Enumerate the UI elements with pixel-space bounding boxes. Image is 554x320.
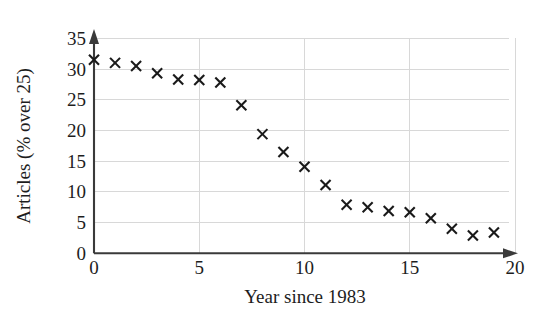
- data-points: [89, 55, 499, 241]
- data-point: [321, 180, 331, 190]
- x-tick-label: 10: [295, 257, 314, 278]
- data-point: [173, 74, 183, 84]
- data-point: [468, 230, 478, 240]
- x-tick-label: 0: [89, 257, 99, 278]
- y-tick-label: 30: [67, 59, 86, 80]
- data-point: [110, 58, 120, 68]
- x-tick-label: 15: [400, 257, 419, 278]
- y-tick-label: 20: [67, 120, 86, 141]
- x-tick-label: 5: [195, 257, 205, 278]
- data-point: [426, 213, 436, 223]
- data-point: [384, 206, 394, 216]
- y-axis-arrowhead: [89, 29, 99, 44]
- y-tick-label: 25: [67, 89, 86, 110]
- scatter-chart: 05101520 05101520253035 Year since 1983 …: [0, 0, 554, 320]
- data-point: [447, 224, 457, 234]
- data-point: [152, 68, 162, 78]
- gridlines: [94, 38, 515, 253]
- y-tick-label: 10: [67, 181, 86, 202]
- data-point: [236, 100, 246, 110]
- chart-canvas: 05101520 05101520253035 Year since 1983 …: [0, 0, 554, 320]
- axis-lines: [89, 29, 518, 258]
- x-tick-labels: 05101520: [89, 257, 524, 278]
- x-axis-title: Year since 1983: [244, 286, 366, 307]
- data-point: [363, 202, 373, 212]
- y-tick-label: 0: [77, 243, 87, 264]
- data-point: [278, 147, 288, 157]
- y-tick-labels: 05101520253035: [67, 28, 86, 264]
- x-tick-label: 20: [506, 257, 525, 278]
- y-tick-label: 5: [77, 212, 87, 233]
- y-axis-title: Articles (% over 25): [13, 68, 35, 224]
- data-point: [215, 78, 225, 88]
- y-tick-label: 15: [67, 151, 86, 172]
- data-point: [489, 227, 499, 237]
- y-tick-label: 35: [67, 28, 86, 49]
- data-point: [342, 200, 352, 210]
